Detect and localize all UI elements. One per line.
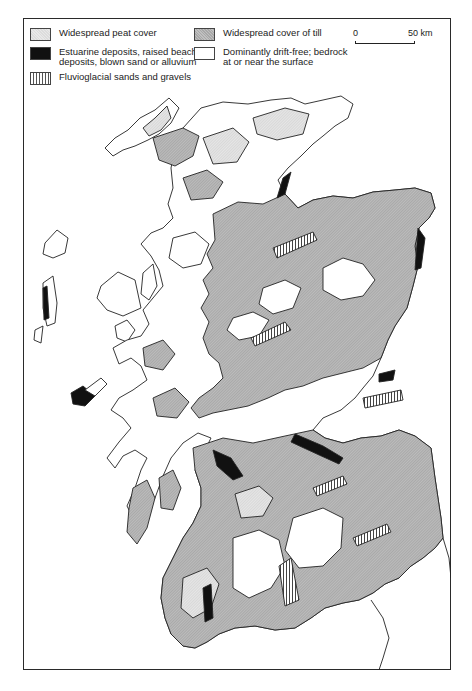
- scotland-map: [23, 18, 451, 670]
